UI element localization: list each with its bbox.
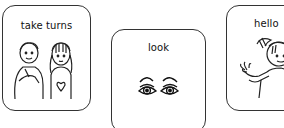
symbol-card-look[interactable]: look (111, 29, 206, 128)
symbol-card-take-turns[interactable]: take turns (2, 5, 91, 111)
waving-girl-icon (237, 34, 284, 104)
symbol-card-hello[interactable]: hello (226, 5, 284, 111)
card-label: take turns (3, 20, 90, 31)
card-label: look (112, 42, 205, 53)
eyes-icon (136, 74, 182, 98)
two-children-icon (11, 41, 83, 101)
card-label: hello (254, 18, 284, 29)
